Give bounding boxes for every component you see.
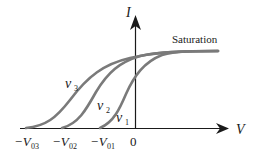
curve-v2 — [62, 51, 218, 128]
svg-text:ν: ν — [65, 76, 72, 91]
origin-label: 0 — [130, 134, 137, 149]
tick-label-v01: −V 01 — [90, 134, 115, 151]
svg-text:1: 1 — [125, 118, 129, 127]
tick-label-v02: −V 02 — [52, 134, 77, 151]
svg-text:01: 01 — [107, 142, 115, 151]
svg-text:3: 3 — [74, 84, 78, 93]
saturation-label: Saturation — [172, 33, 218, 45]
curve-label-v2: ν 2 — [97, 98, 110, 115]
photoelectric-iv-diagram: I V Saturation ν 3 ν 2 ν 1 −V 03 −V 02 −… — [0, 0, 260, 156]
svg-text:ν: ν — [116, 110, 123, 125]
tick-label-v03: −V 03 — [14, 134, 39, 151]
svg-text:−V: −V — [14, 134, 33, 149]
svg-text:−V: −V — [90, 134, 109, 149]
i-axis-label: I — [125, 5, 132, 20]
svg-text:ν: ν — [97, 98, 104, 113]
svg-text:02: 02 — [69, 142, 77, 151]
v-axis-label: V — [236, 122, 246, 137]
svg-text:2: 2 — [106, 106, 110, 115]
curve-label-v3: ν 3 — [65, 76, 78, 93]
svg-text:03: 03 — [31, 142, 39, 151]
svg-text:−V: −V — [52, 134, 71, 149]
curve-label-v1: ν 1 — [116, 110, 129, 127]
